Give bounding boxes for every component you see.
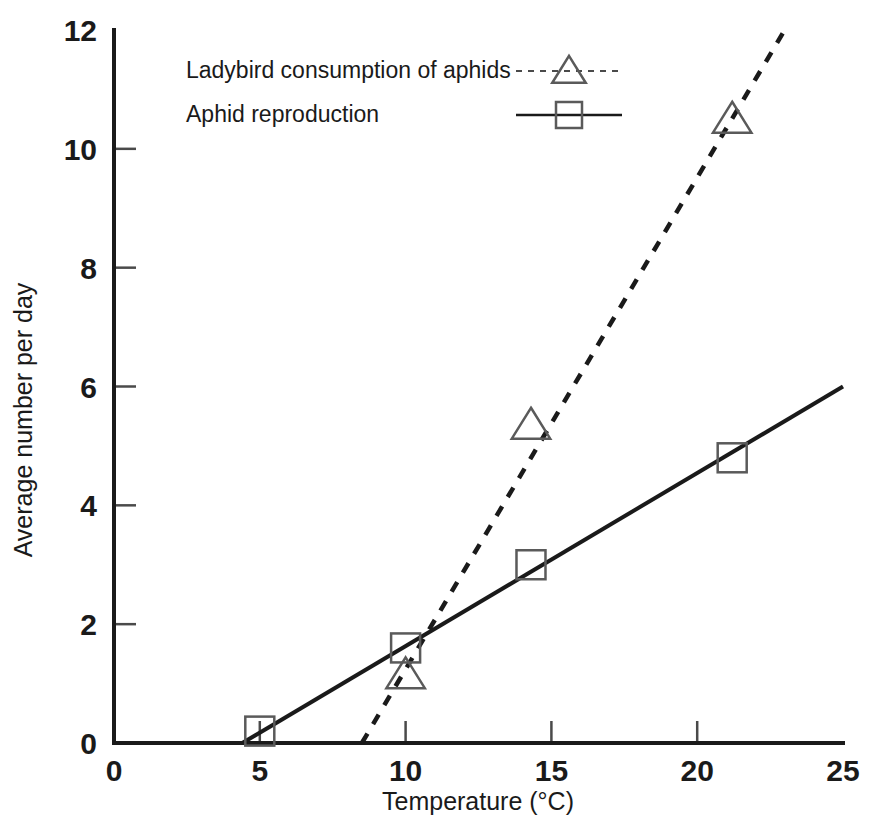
y-tick-label: 8 — [80, 252, 97, 285]
y-tick-label: 2 — [80, 608, 97, 641]
axes — [114, 30, 843, 743]
scatter-plot: 0510152025 024681012 Ladybird consumptio… — [0, 0, 871, 826]
x-tick-label: 5 — [251, 754, 268, 787]
x-tick-label: 10 — [389, 754, 422, 787]
x-tick-label: 20 — [681, 754, 714, 787]
y-axis-title: Average number per day — [9, 282, 37, 557]
x-tick-label: 25 — [826, 754, 859, 787]
y-axis-tick-labels: 024681012 — [64, 14, 98, 760]
y-tick-label: 6 — [80, 371, 97, 404]
chart-figure: 0510152025 024681012 Ladybird consumptio… — [0, 0, 871, 826]
legend-label: Ladybird consumption of aphids — [186, 57, 511, 83]
y-tick-label: 10 — [64, 133, 97, 166]
x-tick-label: 15 — [535, 754, 568, 787]
y-tick-label: 4 — [80, 489, 97, 522]
chart-legend: Ladybird consumption of aphidsAphid repr… — [186, 56, 622, 128]
axis-spine — [114, 30, 843, 743]
legend-item-aphid-reproduction: Aphid reproduction — [186, 101, 622, 128]
data-series — [242, 30, 843, 746]
x-tick-label: 0 — [106, 754, 123, 787]
legend-marker-triangle — [552, 56, 585, 83]
legend-label: Aphid reproduction — [186, 101, 379, 127]
y-tick-label: 0 — [80, 727, 97, 760]
x-axis-tick-labels: 0510152025 — [106, 754, 860, 787]
legend-item-ladybird-consumption: Ladybird consumption of aphids — [186, 56, 622, 83]
y-tick-label: 12 — [64, 14, 97, 47]
x-axis-title: Temperature (°C) — [382, 787, 574, 815]
axis-ticks — [116, 149, 697, 741]
